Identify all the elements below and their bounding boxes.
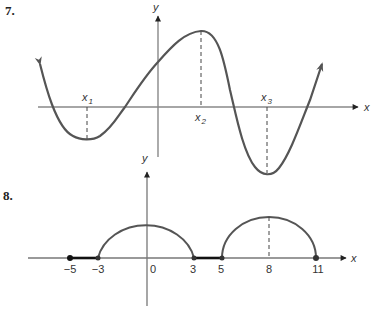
tick-label-3: 3 [190, 263, 196, 275]
semicircle-center-8 [222, 217, 316, 258]
tick-label-11: 11 [312, 263, 323, 275]
point-neg3 [96, 256, 101, 261]
x-axis-label: x [363, 101, 370, 113]
point-3 [192, 256, 197, 261]
point-5 [220, 256, 225, 261]
tick-label-8: 8 [266, 263, 272, 275]
graph-8: x y −5 −3 0 3 5 8 11 [28, 152, 357, 306]
graphs-canvas: x y x1 x2 x3 x y −5 −3 0 [0, 0, 372, 309]
x-axis-label: x [350, 252, 357, 264]
x1-label: x1 [81, 91, 93, 106]
tick-label-0: 0 [150, 263, 156, 275]
tick-label-5: 5 [218, 263, 224, 275]
x2-label: x2 [194, 111, 207, 126]
y-axis-label: y [152, 1, 160, 13]
semicircle-center-0 [98, 225, 194, 258]
tick-label-neg5: −5 [64, 263, 77, 275]
point-11 [313, 255, 319, 261]
tick-label-neg3: −3 [92, 263, 105, 275]
y-axis-label: y [141, 152, 149, 164]
point-neg5 [67, 255, 73, 261]
graph-7: x y x1 x2 x3 [38, 1, 370, 174]
x3-label: x3 [260, 91, 273, 106]
